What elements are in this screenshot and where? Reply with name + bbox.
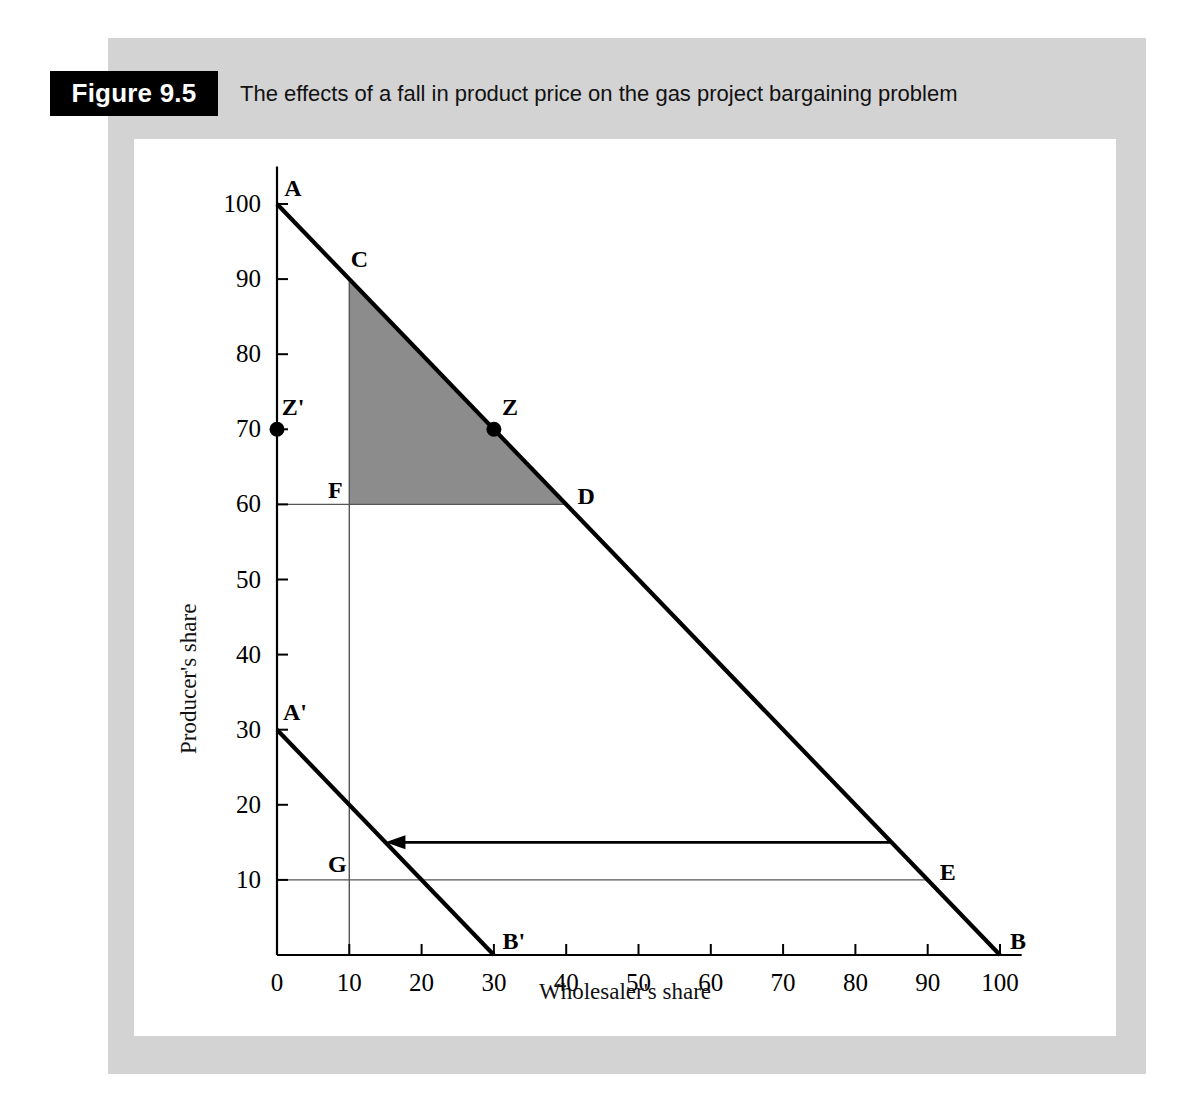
x-tick-label-100: 100 <box>981 969 1019 996</box>
x-tick-label-50: 50 <box>626 969 651 996</box>
y-tick-label-10: 10 <box>236 866 261 893</box>
figure-number-tag: Figure 9.5 <box>50 71 218 116</box>
point-label-Bprime: B' <box>503 928 526 954</box>
point-label-D: D <box>578 483 595 509</box>
y-tick-label-60: 60 <box>236 490 261 517</box>
point-label-E: E <box>940 859 956 885</box>
x-tick-label-20: 20 <box>409 969 434 996</box>
x-tick-label-80: 80 <box>843 969 868 996</box>
chart-svg: 1020304050607080901000102030405060708090… <box>134 139 1116 1036</box>
x-tick-label-60: 60 <box>698 969 723 996</box>
x-tick-label-10: 10 <box>337 969 362 996</box>
point-label-B: B <box>1010 928 1026 954</box>
y-tick-label-40: 40 <box>236 641 261 668</box>
marker-dot-Z <box>486 422 501 437</box>
point-label-F: F <box>328 477 343 503</box>
point-label-Zprime: Z' <box>282 394 305 420</box>
chart-area: 1020304050607080901000102030405060708090… <box>134 139 1116 1036</box>
y-tick-label-80: 80 <box>236 340 261 367</box>
x-tick-label-0: 0 <box>271 969 284 996</box>
figure-title: The effects of a fall in product price o… <box>240 78 1040 110</box>
figure-root: Figure 9.5 The effects of a fall in prod… <box>0 0 1195 1113</box>
x-tick-label-30: 30 <box>481 969 506 996</box>
y-tick-label-30: 30 <box>236 716 261 743</box>
marker-dot-Zprime <box>270 422 285 437</box>
y-tick-label-90: 90 <box>236 265 261 292</box>
point-label-G: G <box>328 851 347 877</box>
y-tick-label-50: 50 <box>236 566 261 593</box>
point-label-A: A <box>284 175 302 201</box>
x-tick-label-90: 90 <box>915 969 940 996</box>
point-label-C: C <box>351 246 368 272</box>
y-tick-label-100: 100 <box>224 190 262 217</box>
x-tick-label-70: 70 <box>771 969 796 996</box>
y-tick-label-20: 20 <box>236 791 261 818</box>
x-tick-label-40: 40 <box>554 969 579 996</box>
y-tick-label-70: 70 <box>236 415 261 442</box>
point-label-Aprime: A' <box>283 699 307 725</box>
point-label-Z: Z <box>502 394 518 420</box>
